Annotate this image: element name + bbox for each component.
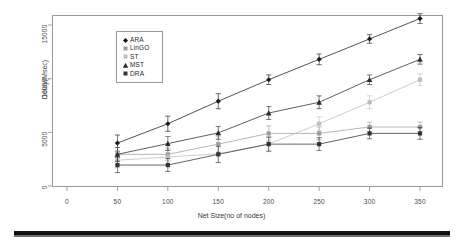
- x-axis-title: Net Size(no of nodes): [0, 212, 463, 219]
- x-tick-0: 0: [53, 198, 81, 205]
- legend-label: LinGO: [130, 44, 150, 52]
- data-point-marker: [115, 163, 119, 167]
- data-point-marker: [216, 152, 220, 156]
- x-tick-50: 50: [103, 198, 131, 205]
- data-point-marker: [417, 16, 422, 21]
- chart-page: 050001000015000 050100150200250300350 De…: [0, 0, 463, 240]
- data-point-marker: [367, 131, 371, 135]
- data-point-marker: [165, 121, 170, 126]
- data-point-marker: [115, 140, 120, 145]
- x-tick-300: 300: [356, 198, 384, 205]
- y-tick-0: 0: [41, 186, 48, 214]
- data-point-marker: [317, 131, 321, 135]
- x-tick-200: 200: [255, 198, 283, 205]
- data-point-marker: [417, 57, 423, 62]
- data-point-marker: [367, 36, 372, 41]
- square-marker-icon: [121, 70, 130, 77]
- data-point-marker: [166, 163, 170, 167]
- data-point-marker: [317, 122, 321, 126]
- legend-item-dra[interactable]: DRA: [121, 70, 159, 78]
- data-point-marker: [316, 99, 322, 104]
- data-point-marker: [418, 131, 422, 135]
- x-tick-350: 350: [406, 198, 434, 205]
- legend-label: ARA: [130, 36, 144, 44]
- y-tick-15000: 15000: [41, 25, 48, 53]
- data-point-marker: [418, 78, 422, 82]
- chart-legend: ARALinGOSTMSTDRA: [116, 31, 163, 83]
- square-marker-icon: [121, 53, 130, 60]
- data-point-marker: [367, 100, 371, 104]
- data-point-marker: [317, 57, 322, 62]
- x-tick-100: 100: [154, 198, 182, 205]
- data-point-marker: [266, 77, 271, 82]
- legend-label: ST: [130, 53, 139, 61]
- data-point-marker: [317, 142, 321, 146]
- data-point-marker: [267, 142, 271, 146]
- axis-ticks: [48, 25, 420, 191]
- data-point-marker: [216, 99, 221, 104]
- series-st: [115, 74, 423, 168]
- x-tick-250: 250: [305, 198, 333, 205]
- legend-item-mst[interactable]: MST: [121, 61, 159, 69]
- legend-item-st[interactable]: ST: [121, 53, 159, 61]
- legend-label: DRA: [130, 70, 144, 78]
- data-point-marker: [215, 130, 221, 135]
- y-axis-title: Delay(Msec): [41, 50, 48, 110]
- legend-item-ara[interactable]: ARA: [121, 36, 159, 44]
- x-tick-150: 150: [204, 198, 232, 205]
- diamond-marker-icon: [121, 37, 130, 44]
- y-tick-5000: 5000: [41, 132, 48, 160]
- data-point-marker: [367, 77, 373, 82]
- square-marker-icon: [121, 45, 130, 52]
- data-point-marker: [267, 131, 271, 135]
- triangle-marker-icon: [121, 62, 130, 69]
- legend-label: MST: [130, 61, 144, 69]
- legend-item-lingo[interactable]: LinGO: [121, 44, 159, 52]
- bottom-divider-shadow: [14, 235, 450, 237]
